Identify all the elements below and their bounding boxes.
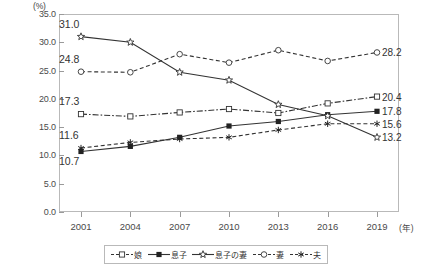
legend-swatch [290,249,312,260]
end-value-label: 28.2 [382,47,401,58]
end-value-label: 13.2 [382,132,401,143]
series-2 [78,109,379,154]
data-point-marker [226,106,231,111]
legend-swatch [253,249,275,260]
legend-label: 夫 [313,249,321,260]
legend-swatch [148,249,170,260]
start-value-label: 31.0 [59,18,79,30]
data-point-marker [276,110,281,115]
legend-item-5[interactable]: 夫 [290,249,321,260]
data-point-marker [226,123,231,128]
data-point-marker [177,51,183,57]
data-point-marker [276,47,282,53]
data-point-marker [374,109,379,114]
data-point-marker [128,114,133,119]
start-value-label: 10.7 [59,155,79,167]
start-value-label: 17.3 [59,95,79,107]
legend-label: 息子 [171,249,187,260]
legend-label: 娘 [134,249,142,260]
data-point-marker [200,251,207,258]
data-point-marker [78,112,83,117]
data-point-marker [325,58,331,64]
legend-swatch [111,249,133,260]
data-point-marker [275,101,282,108]
start-value-label: 24.8 [59,53,79,65]
legend-swatch [192,249,214,260]
data-point-marker [261,252,267,258]
series-1 [78,94,379,119]
legend-item-4[interactable]: 妻 [253,249,284,260]
data-point-marker [373,134,380,141]
series-line [81,37,377,138]
series-4 [78,47,380,75]
legend-item-1[interactable]: 娘 [111,249,142,260]
data-point-marker [128,69,134,75]
data-point-marker [77,33,84,40]
end-value-label: 20.4 [382,91,401,102]
series-line [81,111,377,151]
legend-item-3[interactable]: 息子の妻 [192,249,247,260]
line-chart: (%) 0.05.010.015.020.025.030.035.0 20012… [0,0,423,269]
data-point-marker [119,252,124,257]
legend-label: 妻 [276,249,284,260]
legend-item-2[interactable]: 息子 [148,249,187,260]
data-point-marker [325,101,330,106]
data-point-marker [177,110,182,115]
data-point-marker [225,76,232,83]
end-value-label: 17.8 [382,106,401,117]
legend-label: 息子の妻 [215,249,247,260]
data-point-marker [276,119,281,124]
start-value-label: 11.6 [59,129,79,141]
data-point-marker [176,68,183,75]
data-point-marker [374,121,380,127]
data-point-marker [374,94,379,99]
data-point-marker [78,69,84,75]
data-point-marker [156,252,161,257]
legend: 娘息子息子の妻妻夫 [104,245,328,264]
data-point-marker [374,50,380,56]
data-point-marker [226,60,232,66]
end-value-label: 15.6 [382,118,401,129]
